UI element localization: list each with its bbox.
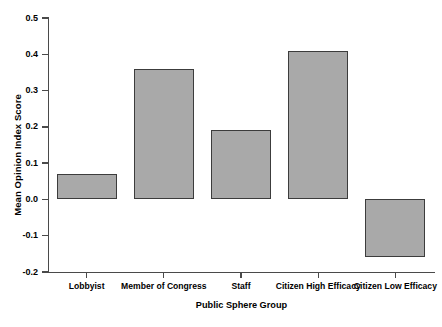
x-axis-tick-label: Citizen Low Efficacy (354, 281, 437, 292)
y-axis-tick (42, 17, 48, 18)
bar (134, 69, 194, 200)
y-axis-tick-label: -0.2 (4, 268, 38, 277)
x-axis-tick (240, 273, 241, 278)
x-axis-tick (86, 273, 87, 278)
y-axis-tick (42, 235, 48, 236)
y-axis-line (48, 17, 49, 273)
bar (365, 199, 425, 257)
y-axis-tick-label: 0.0 (4, 195, 38, 204)
y-axis-tick-label: 0.4 (4, 50, 38, 59)
x-axis-tick (395, 273, 396, 278)
x-axis-tick-label: Member of Congress (121, 281, 206, 292)
x-axis-tick-label: Staff (231, 281, 250, 292)
x-axis-title: Public Sphere Group (48, 300, 435, 311)
y-axis-tick-label: 0.2 (4, 122, 38, 131)
x-axis-tick (318, 273, 319, 278)
y-axis-tick-label: 0.3 (4, 86, 38, 95)
y-axis-tick-label: 0.5 (4, 14, 38, 23)
y-axis-tick (42, 126, 48, 127)
y-axis-tick (42, 271, 48, 272)
bar (211, 130, 271, 199)
bar (288, 51, 348, 200)
y-axis-tick (42, 199, 48, 200)
bar-chart: Mean Opinion Index Score 0.50.40.30.20.1… (0, 0, 442, 327)
x-axis-tick-label: Citizen High Efficacy (276, 281, 361, 292)
x-axis-tick (163, 273, 164, 278)
x-axis-tick-label: Lobbyist (69, 281, 105, 292)
bar (57, 174, 117, 199)
y-axis-tick-label: -0.1 (4, 231, 38, 240)
y-axis-tick (42, 54, 48, 55)
y-axis-tick (42, 90, 48, 91)
y-axis-tick (42, 162, 48, 163)
y-axis-tick-label: 0.1 (4, 159, 38, 168)
